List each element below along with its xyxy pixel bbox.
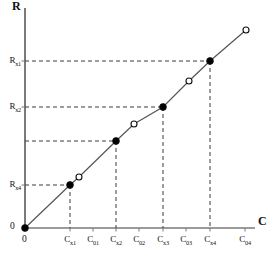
filled-marker-0-7[interactable] bbox=[207, 58, 214, 65]
x-axis-title: C bbox=[258, 214, 267, 229]
filled-marker-0-0[interactable] bbox=[22, 225, 29, 232]
open-marker-0-6[interactable] bbox=[186, 78, 192, 84]
y-axis-zero-label: 0 bbox=[10, 221, 15, 231]
data-markers-group bbox=[22, 27, 249, 231]
chart-figure: R C 0 0 Cx1C01Cx2C02Cx3C03Cx4C04 Rx1Rx2R… bbox=[0, 0, 275, 253]
filled-marker-0-3[interactable] bbox=[113, 138, 120, 145]
drop-lines-group bbox=[70, 61, 210, 228]
plot-canvas bbox=[0, 0, 275, 253]
y-tick-label-rx4: Rx4 bbox=[0, 179, 21, 191]
filled-marker-0-5[interactable] bbox=[160, 104, 167, 111]
open-marker-0-8[interactable] bbox=[243, 27, 249, 33]
tick-marks-group bbox=[22, 61, 246, 232]
x-axis-zero-label: 0 bbox=[22, 234, 27, 244]
y-axis-title: R bbox=[12, 0, 21, 14]
filled-marker-0-1[interactable] bbox=[67, 182, 74, 189]
y-tick-label-rx2: Rx2 bbox=[0, 101, 21, 113]
level-lines-group bbox=[25, 61, 210, 185]
open-marker-0-2[interactable] bbox=[76, 174, 82, 180]
open-marker-0-4[interactable] bbox=[131, 121, 137, 127]
x-tick-label-c04: C04 bbox=[231, 234, 259, 246]
x-tick-label-cx4: Cx4 bbox=[196, 234, 224, 246]
y-tick-label-rx1: Rx1 bbox=[0, 55, 21, 67]
